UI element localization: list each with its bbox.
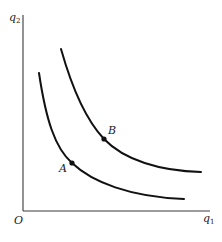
upper-curve bbox=[61, 49, 201, 172]
y-axis-label: q2 bbox=[9, 11, 21, 25]
point-a-label: A bbox=[58, 162, 67, 175]
diagram-canvas: q2 O q1 A B bbox=[0, 0, 222, 242]
point-b bbox=[101, 136, 106, 141]
point-a bbox=[69, 160, 74, 165]
origin-label: O bbox=[14, 214, 23, 227]
x-axis-label: q1 bbox=[203, 212, 215, 226]
point-b-label: B bbox=[107, 124, 116, 137]
